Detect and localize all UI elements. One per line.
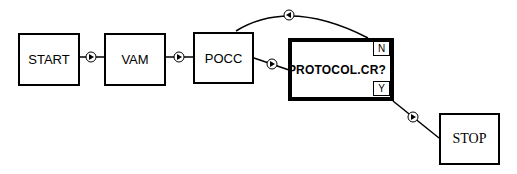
node-start-label: START	[28, 52, 69, 67]
edge-pocc-decision[interactable]	[254, 58, 289, 70]
node-stop[interactable]: STOP	[439, 113, 500, 165]
edge-decision-no-pocc[interactable]	[236, 10, 368, 38]
edge-start-vam[interactable]	[80, 52, 104, 62]
branch-no-port[interactable]: N	[373, 41, 390, 56]
right-arrow-marker-icon	[86, 52, 96, 62]
node-vam[interactable]: VAM	[104, 33, 166, 86]
node-vam-label: VAM	[121, 52, 148, 67]
right-arrow-marker-icon	[267, 59, 277, 69]
edge-vam-pocc[interactable]	[166, 52, 193, 62]
node-pocc-label: POCC	[205, 51, 243, 66]
node-pocc[interactable]: POCC	[193, 32, 254, 84]
left-arrow-marker-icon	[284, 10, 294, 20]
edge-decision-yes-stop[interactable]	[393, 101, 439, 138]
right-arrow-marker-icon	[174, 52, 184, 62]
branch-yes-label: Y	[378, 83, 385, 94]
branch-yes-port[interactable]: Y	[373, 81, 390, 96]
branch-no-label: N	[378, 43, 385, 54]
node-stop-label: STOP	[453, 131, 487, 147]
node-decision-label: PROTOCOL.CR?	[288, 63, 386, 77]
right-arrow-marker-icon	[408, 112, 418, 122]
node-start[interactable]: START	[18, 33, 80, 86]
flow-diagram-canvas: START VAM POCC PROTOCOL.CR? N Y STOP	[0, 0, 517, 174]
